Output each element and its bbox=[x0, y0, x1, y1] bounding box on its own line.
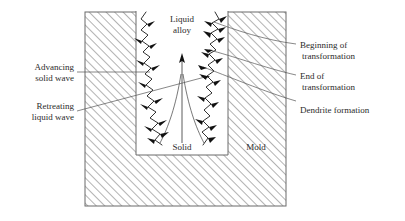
end-transformation-label-line2: transformation bbox=[302, 82, 355, 92]
solidification-diagram: Liquid alloy Solid Mold Advancing solid … bbox=[0, 0, 405, 221]
advancing-solid-wave-label-line1: Advancing bbox=[35, 62, 75, 72]
dendrite-formation-label: Dendrite formation bbox=[300, 105, 370, 115]
figure-container: Liquid alloy Solid Mold Advancing solid … bbox=[0, 0, 405, 221]
retreating-liquid-wave-label-line1: Retreating bbox=[37, 101, 75, 111]
mold-label: Mold bbox=[246, 142, 266, 152]
advancing-solid-wave-label-line2: solid wave bbox=[35, 73, 74, 83]
liquid-alloy-label-line2: alloy bbox=[173, 25, 191, 35]
beginning-transformation-label-line2: transformation bbox=[302, 51, 355, 61]
solid-label: Solid bbox=[172, 142, 192, 152]
beginning-transformation-label-line1: Beginning of bbox=[300, 40, 347, 50]
liquid-alloy-label-line1: Liquid bbox=[170, 14, 194, 24]
retreating-liquid-wave-label-line2: liquid wave bbox=[32, 112, 74, 122]
end-transformation-label-line1: End of bbox=[300, 71, 324, 81]
